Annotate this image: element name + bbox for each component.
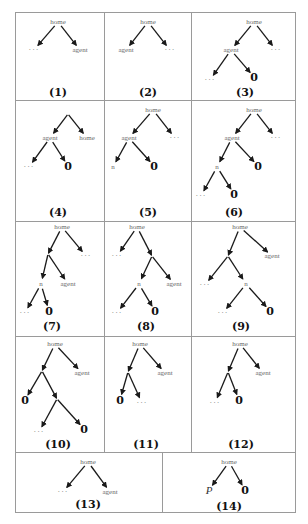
ellipsis-node: ··· <box>218 309 229 317</box>
tree-node-label: agent <box>72 47 87 54</box>
tree-node-label: home <box>50 19 66 26</box>
ellipsis-node: ··· <box>81 252 92 260</box>
tree-node-label: home <box>79 135 95 142</box>
ellipsis-node: ··· <box>271 134 282 142</box>
tree-node-label: P <box>206 485 213 496</box>
panel-caption: (12) <box>228 438 254 451</box>
tree-node-label: home <box>246 107 262 114</box>
panel-caption: (14) <box>216 500 242 513</box>
panel-caption: (6) <box>225 206 243 219</box>
tree-node-label: n <box>137 281 141 288</box>
leaf-zero: 0 <box>254 161 262 172</box>
tree-node-label: n <box>111 164 115 171</box>
leaf-zero: 0 <box>241 485 249 496</box>
tree-node-label: home <box>140 19 156 26</box>
tree-node-label: agent <box>157 370 172 377</box>
ellipsis-node: ··· <box>112 309 123 317</box>
ellipsis-node: ··· <box>24 163 35 171</box>
ellipsis-node: ··· <box>137 399 148 407</box>
tree-node-label: agent <box>60 281 75 288</box>
panel-caption: (13) <box>75 498 101 511</box>
leaf-zero: 0 <box>151 306 159 317</box>
tree-node-label: agent <box>102 489 117 496</box>
leaf-zero: 0 <box>150 161 158 172</box>
tree-node-label: agent <box>74 370 89 377</box>
leaf-zero: 0 <box>21 395 29 406</box>
ellipsis-node: ··· <box>20 309 31 317</box>
ellipsis-node: ··· <box>112 252 123 260</box>
tree-node-label: home <box>129 224 145 231</box>
tree-node-label: agent <box>223 47 238 54</box>
tree-node-label: agent <box>121 135 136 142</box>
tree-figure: home···agent(1)homeagent···(2)homeagent·… <box>0 0 308 524</box>
panel-caption: (8) <box>137 320 155 333</box>
panel-caption: (2) <box>139 86 157 99</box>
ellipsis-node: ··· <box>165 46 176 54</box>
tree-node-label: agent <box>255 370 270 377</box>
tree-node-label: n <box>215 164 219 171</box>
tree-node-label: home <box>145 107 161 114</box>
tree-node-label: agent <box>118 47 133 54</box>
panel-caption: (10) <box>45 438 71 451</box>
panel-6 <box>191 100 296 222</box>
leaf-zero: 0 <box>116 395 124 406</box>
panel-12 <box>191 336 296 453</box>
tree-node-label: home <box>221 459 237 466</box>
panel-5 <box>104 100 192 222</box>
tree-node-label: home <box>232 224 248 231</box>
ellipsis-node: ··· <box>58 488 69 496</box>
leaf-zero: 0 <box>230 189 238 200</box>
ellipsis-node: ··· <box>205 76 216 84</box>
panel-4 <box>15 100 105 222</box>
ellipsis-node: ··· <box>210 399 221 407</box>
tree-node-label: home <box>47 341 63 348</box>
tree-node-label: n <box>39 281 43 288</box>
panel-caption: (7) <box>43 320 61 333</box>
ellipsis-node: ··· <box>271 46 282 54</box>
leaf-zero: 0 <box>235 395 243 406</box>
tree-node-label: n <box>244 281 248 288</box>
tree-node-label: home <box>54 224 70 231</box>
panel-caption: (1) <box>49 86 67 99</box>
tree-node-label: home <box>132 341 148 348</box>
ellipsis-node: ··· <box>196 192 207 200</box>
tree-node-label: agent <box>166 281 181 288</box>
tree-node-label: agent <box>224 135 239 142</box>
ellipsis-node: ··· <box>29 46 40 54</box>
panel-caption: (9) <box>232 320 250 333</box>
panel-caption: (5) <box>139 206 157 219</box>
leaf-zero: 0 <box>80 424 88 435</box>
tree-node-label: agent <box>264 253 279 260</box>
ellipsis-node: ··· <box>200 281 211 289</box>
ellipsis-node: ··· <box>34 428 45 436</box>
tree-node-label: home <box>80 459 96 466</box>
tree-node-label: home <box>246 19 262 26</box>
leaf-zero: 0 <box>45 306 53 317</box>
panel-caption: (11) <box>133 438 159 451</box>
ellipsis-node: ··· <box>170 134 181 142</box>
leaf-zero: 0 <box>250 72 258 83</box>
panel-caption: (3) <box>236 86 254 99</box>
leaf-zero: 0 <box>64 161 72 172</box>
tree-node-label: home <box>232 341 248 348</box>
tree-node-label: agent <box>42 135 57 142</box>
leaf-zero: 0 <box>266 306 274 317</box>
panel-caption: (4) <box>49 206 67 219</box>
